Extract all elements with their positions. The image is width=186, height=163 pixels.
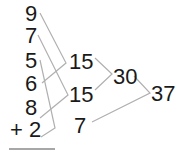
addend-9: 9: [25, 3, 37, 25]
partial-sum-15-top: 15: [69, 51, 93, 73]
addend-5: 5: [25, 50, 37, 72]
addend-6: 6: [25, 73, 37, 95]
partial-sum-15-bottom: 15: [69, 84, 93, 106]
addend-7: 7: [25, 25, 37, 47]
partial-sum-30: 30: [113, 66, 137, 88]
addend-plus-2: + 2: [10, 119, 41, 141]
addition-tree-diagram: 9 7 5 6 8 + 2 15 15 7 30 37: [0, 0, 186, 163]
total-sum-37: 37: [151, 83, 175, 105]
addend-8: 8: [25, 97, 37, 119]
partial-sum-7: 7: [74, 115, 86, 137]
